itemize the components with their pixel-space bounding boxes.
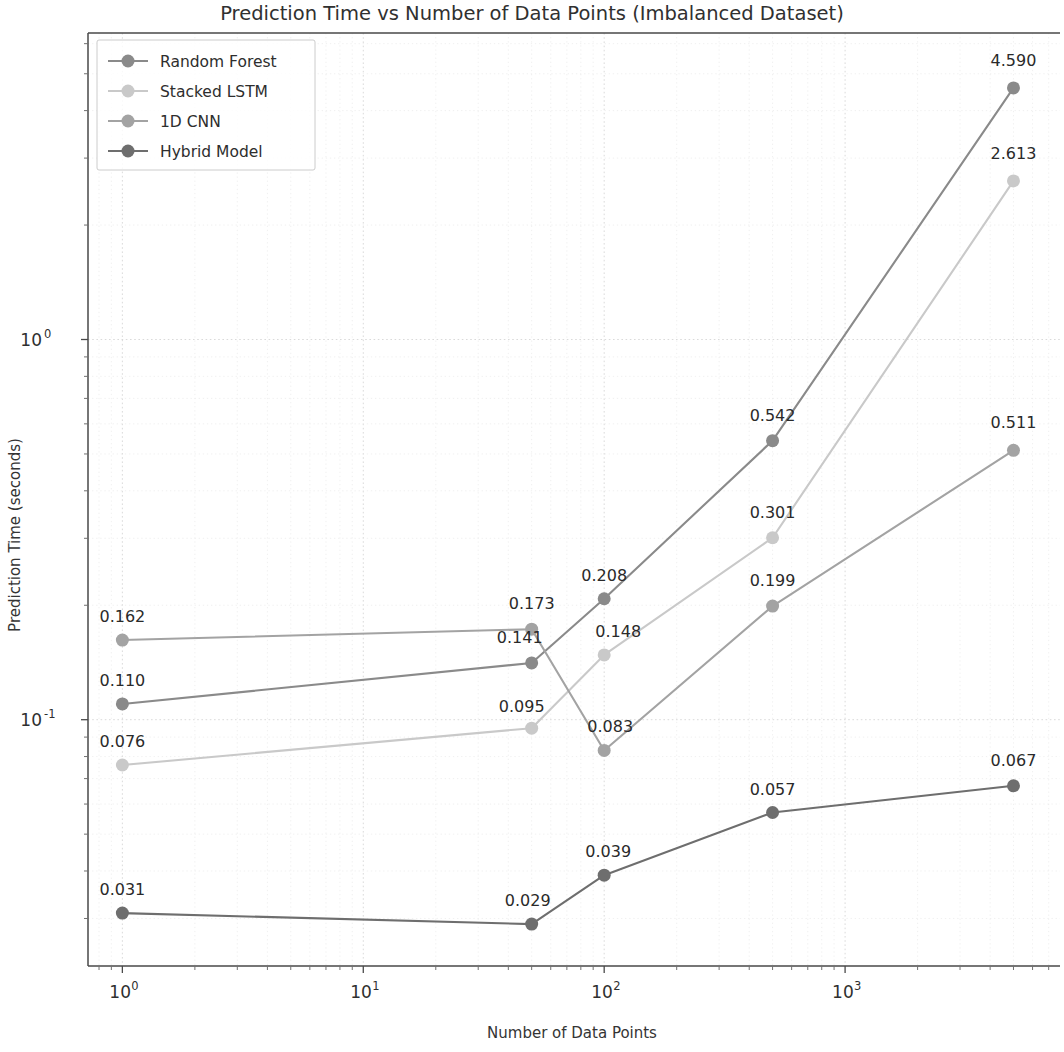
x-axis-label: Number of Data Points: [487, 1024, 657, 1042]
data-point-labels-layer: 0.1100.1410.2080.5424.5900.0760.0950.148…: [99, 51, 1036, 910]
legend-label: Stacked LSTM: [160, 83, 268, 101]
data-point-marker: [598, 592, 611, 605]
series-hybrid-model: [116, 779, 1020, 930]
data-point-marker: [598, 648, 611, 661]
axes-layer: [88, 33, 1060, 966]
data-point-marker: [1007, 444, 1020, 457]
data-point-marker: [766, 600, 779, 613]
data-point-value-label: 0.076: [99, 732, 145, 751]
data-point-marker: [116, 759, 129, 772]
data-point-value-label: 0.083: [587, 717, 633, 736]
x-tick-exponent: 1: [372, 979, 379, 993]
legend-label: Hybrid Model: [160, 143, 263, 161]
chart-figure: 10010110210310010-1 0.1100.1410.2080.542…: [0, 0, 1064, 1052]
data-point-value-label: 0.067: [991, 751, 1037, 770]
data-point-marker: [525, 656, 538, 669]
data-point-value-label: 0.208: [581, 566, 627, 585]
data-point-value-label: 0.162: [99, 607, 145, 626]
x-tick-label: 10: [832, 982, 854, 1002]
x-tick-label: 10: [109, 982, 131, 1002]
data-point-value-label: 0.141: [497, 628, 543, 647]
data-point-marker: [525, 722, 538, 735]
data-point-marker: [1007, 174, 1020, 187]
data-point-value-label: 0.542: [750, 406, 796, 425]
data-point-value-label: 0.031: [99, 880, 145, 899]
data-series-layer: [116, 81, 1020, 930]
grid-layer: [88, 33, 1060, 966]
data-point-marker: [116, 634, 129, 647]
data-point-value-label: 4.590: [991, 51, 1037, 70]
data-point-marker: [598, 744, 611, 757]
x-tick-label: 10: [591, 982, 613, 1002]
data-point-value-label: 0.110: [99, 671, 145, 690]
data-point-marker: [1007, 779, 1020, 792]
legend-label: 1D CNN: [160, 113, 221, 131]
data-point-marker: [1007, 81, 1020, 94]
y-tick-label: 10: [20, 710, 42, 730]
data-point-value-label: 0.095: [499, 697, 545, 716]
data-point-value-label: 0.148: [595, 622, 641, 641]
x-tick-exponent: 0: [131, 979, 138, 993]
data-point-value-label: 2.613: [991, 144, 1037, 163]
data-point-value-label: 0.199: [750, 571, 796, 590]
prediction-time-line-chart: 10010110210310010-1 0.1100.1410.2080.542…: [0, 0, 1064, 1052]
data-point-marker: [766, 434, 779, 447]
data-point-marker: [116, 697, 129, 710]
data-point-marker: [766, 806, 779, 819]
series-stacked-lstm: [116, 174, 1020, 771]
data-point-marker: [116, 907, 129, 920]
axis-ticks-layer: 10010110210310010-1: [20, 44, 1048, 1002]
x-tick-exponent: 3: [854, 979, 861, 993]
x-tick-label: 10: [350, 982, 372, 1002]
data-point-value-label: 0.057: [750, 780, 796, 799]
legend-label: Random Forest: [160, 53, 277, 71]
data-point-value-label: 0.511: [991, 413, 1037, 432]
data-point-value-label: 0.301: [750, 503, 796, 522]
x-tick-exponent: 2: [613, 979, 620, 993]
data-point-value-label: 0.029: [505, 891, 551, 910]
data-point-marker: [598, 869, 611, 882]
chart-title: Prediction Time vs Number of Data Points…: [220, 2, 844, 25]
data-point-value-label: 0.039: [585, 842, 631, 861]
chart-legend: Random ForestStacked LSTM1D CNNHybrid Mo…: [97, 40, 315, 170]
y-tick-exponent: -1: [44, 707, 55, 721]
y-tick-label: 10: [20, 330, 42, 350]
data-point-value-label: 0.173: [509, 594, 555, 613]
data-point-marker: [525, 918, 538, 931]
data-point-marker: [766, 531, 779, 544]
y-axis-label: Prediction Time (seconds): [6, 438, 24, 632]
y-tick-exponent: 0: [44, 327, 51, 341]
series-random-forest: [116, 81, 1020, 710]
